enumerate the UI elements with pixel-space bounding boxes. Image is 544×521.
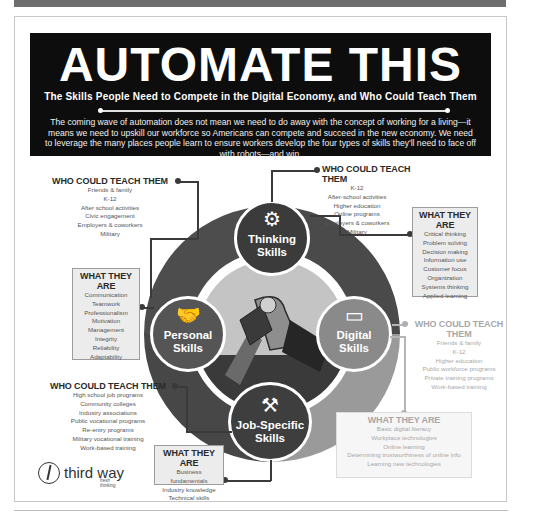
job-specific-what-box: WHAT THEY ARE Business fundamentals Indu… [154,445,224,485]
list-item: Work-based training [406,383,512,392]
personal-skills-node: 🤝 Personal Skills [150,296,226,372]
list-item: Management [76,326,136,335]
list-item: Military vocational training [40,435,176,444]
list-item: Community colleges [40,400,176,409]
list-item: Civic engagement [40,212,180,221]
list-item: Public workforce programs [406,365,512,374]
list-item: Friends & family [40,186,180,195]
list-item: Basic digital literacy [340,425,468,434]
list-item: Teamwork [76,300,136,309]
list-item: Military [318,228,396,237]
thinking-skills-label-2: Skills [257,246,287,259]
connector-line [197,181,199,239]
personal-skills-label: Personal [164,329,213,342]
list-item: Integrity [76,335,136,344]
list-item: Critical thinking [416,230,474,239]
list-item: Online learning [340,443,468,452]
personal-skills-label-2: Skills [173,342,203,355]
list-item: Customer focus [416,265,474,274]
list-item: Industry knowledge [158,486,220,495]
third-way-logo: third way fresh thinking [38,462,124,484]
connector-line [186,386,188,432]
list-item: Organization [416,274,474,283]
list-item: Employers & coworkers [40,221,180,230]
list-item: Private training programs [406,374,512,383]
connector-line [271,170,273,202]
digital-who-block: WHO COULD TEACH THEM Friends & family K-… [406,319,512,392]
digital-skills-label: Digital [336,329,371,342]
job-specific-who-heading: WHO COULD TEACH THEM [40,381,176,391]
list-item: After school activities [40,204,180,213]
head-gears-icon: ⚙ [263,208,281,230]
list-item: Military [40,230,180,239]
devices-icon: ▭ [345,304,364,326]
connector-line [150,238,152,298]
handshake-icon: 🤝 [176,304,201,326]
list-item: Re-entry programs [40,426,176,435]
list-item: High school job programs [40,391,176,400]
personal-what-box: WHAT THEY ARE Communication Teamwork Pro… [72,268,140,360]
job-specific-who-block: WHO COULD TEACH THEM High school job pro… [40,381,176,453]
list-item: Public vocational programs [40,417,176,426]
digital-skills-label-2: Skills [339,342,369,355]
list-item: Higher education [406,357,512,366]
digital-what-box: WHAT THEY ARE Basic digital literacy Wor… [336,412,472,478]
connector-line [178,181,198,183]
connector-line [271,170,316,172]
list-item: K-12 [318,184,396,193]
list-item: Industry associations [40,409,176,418]
list-item: Reliability [76,344,136,353]
digital-skills-node: ▭ Digital Skills [316,296,392,372]
list-item: Friends & family [406,339,512,348]
list-item: Systems thinking [416,283,474,292]
list-item: Business fundamentals [158,468,220,486]
connector-line [225,480,271,482]
list-item: Employers & coworkers [318,219,396,228]
list-item: Problem solving [416,239,474,248]
list-item: Communication [76,291,136,300]
list-item: Determining trustworthiness of online in… [340,451,468,460]
list-item: Online programs [318,210,396,219]
job-specific-skills-label: Job-Specific [236,419,304,432]
connector-line [186,431,232,433]
compass-icon [38,462,60,484]
personal-who-block: WHO COULD TEACH THEM Friends & family K-… [40,176,180,239]
thinking-skills-node: ⚙ Thinking Skills [234,200,310,276]
logo-tagline: fresh thinking [100,478,124,488]
list-item: Decision making [416,248,474,257]
job-specific-skills-node: ⚒ Job-Specific Skills [228,382,312,462]
hammer-wrench-icon: ⚒ [261,394,279,416]
digital-what-heading: WHAT THEY ARE [340,415,468,425]
connector-line [390,336,405,338]
list-item: Applied learning [416,292,474,301]
personal-what-heading: WHAT THEY ARE [76,271,136,291]
list-item: K-12 [406,348,512,357]
list-item: Adaptability [76,353,136,362]
list-item: Learning new technologies [340,460,468,469]
thinking-what-box: WHAT THEY ARE Critical thinking Problem … [412,207,478,297]
job-specific-what-heading: WHAT THEY ARE [158,448,220,468]
list-item: Technical skills [158,494,220,503]
list-item: After-school activities [318,193,396,202]
thinking-what-heading: WHAT THEY ARE [416,210,474,230]
list-item: Motivation [76,317,136,326]
thinking-skills-label: Thinking [248,233,296,246]
list-item: Higher education [318,202,396,211]
job-specific-skills-label-2: Skills [255,432,285,445]
list-item: Information use [416,256,474,265]
list-item: Workplace technologies [340,434,468,443]
list-item: Professionalism [76,309,136,318]
list-item: K-12 [40,195,180,204]
digital-who-heading: WHO COULD TEACH THEM [406,319,512,339]
connector-line [270,460,272,481]
thinking-who-heading: WHO COULD TEACH THEM [318,164,428,184]
personal-who-heading: WHO COULD TEACH THEM [40,176,180,186]
